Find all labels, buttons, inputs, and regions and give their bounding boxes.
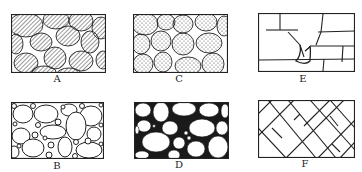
panel-a-hatched-grains	[11, 14, 106, 73]
panel-e-fractured-blocks	[258, 13, 355, 72]
panel-f-diagonal-fractures	[258, 100, 355, 158]
panel-c-label: C	[169, 73, 189, 84]
fractured-blocks-illustration	[258, 13, 355, 72]
diagonal-fractures-illustration	[258, 100, 355, 158]
panel-d-cemented-grains	[134, 102, 229, 159]
panel-e-label: E	[293, 73, 313, 84]
hatched-grains-illustration	[11, 14, 106, 73]
panel-c-stippled-grains	[133, 14, 228, 73]
panel-a-label: A	[47, 73, 67, 84]
mixed-size-grains-illustration	[11, 102, 104, 159]
panel-f-label: F	[295, 158, 315, 169]
panel-b-mixed-size-grains	[11, 102, 104, 159]
stippled-grains-illustration	[133, 14, 228, 73]
cemented-grains-illustration	[134, 102, 229, 159]
panel-b-label: B	[47, 160, 67, 171]
panel-d-label: D	[169, 159, 189, 170]
